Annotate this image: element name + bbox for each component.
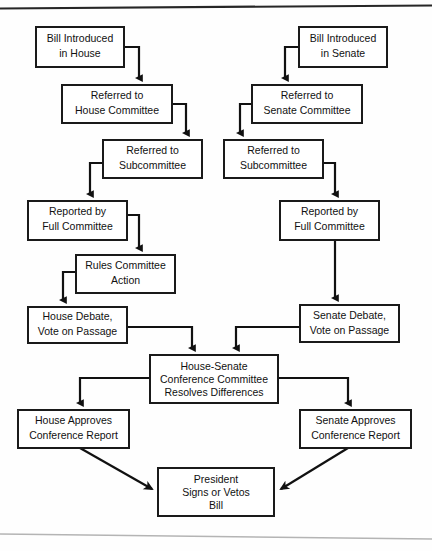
- node-ref-sub-senate-line-2: Subcommittee: [240, 159, 307, 171]
- node-house-debate-line-2: Vote on Passage: [38, 325, 118, 337]
- node-house-approves-line-2: Conference Report: [29, 429, 118, 441]
- node-bill-house-line-1: Bill Introduced: [47, 32, 114, 44]
- node-ref-sub-senate[interactable]: Referred to Subcommittee: [224, 140, 323, 178]
- node-ref-senate-cmte-line-2: Senate Committee: [264, 104, 351, 116]
- node-bill-senate-line-1: Bill Introduced: [310, 32, 377, 44]
- node-reported-house[interactable]: Reported by Full Committee: [28, 201, 127, 240]
- edge-ref-house-cmte-to-ref-sub-house: [172, 104, 186, 133]
- node-reported-senate-line-2: Full Committee: [294, 220, 365, 232]
- node-senate-debate-line-2: Vote on Passage: [310, 324, 390, 336]
- node-reported-house-line-1: Reported by: [49, 205, 107, 217]
- node-conference-line-1: House-Senate: [180, 360, 247, 372]
- node-layer: Bill Introduced in House Referred to Hou…: [18, 27, 411, 516]
- node-senate-approves-line-1: Senate Approves: [316, 414, 396, 426]
- node-reported-senate-line-1: Reported by: [301, 205, 359, 217]
- edge-bill-senate-to-ref-senate-cmte: [285, 47, 299, 78]
- node-ref-sub-house-line-2: Subcommittee: [119, 159, 186, 171]
- node-conference-line-3: Resolves Differences: [164, 386, 263, 398]
- horizontal-rule-bottom: [0, 534, 432, 539]
- edge-reported-house-to-rules-cmte: [127, 215, 139, 248]
- node-ref-senate-cmte-line-1: Referred to: [281, 89, 334, 101]
- node-senate-debate[interactable]: Senate Debate, Vote on Passage: [300, 305, 399, 342]
- node-reported-senate[interactable]: Reported by Full Committee: [280, 201, 379, 240]
- node-house-approves[interactable]: House Approves Conference Report: [18, 410, 129, 448]
- edge-rules-cmte-to-house-debate: [63, 272, 76, 300]
- node-ref-sub-house-line-1: Referred to: [126, 144, 179, 156]
- edge-ref-sub-house-to-reported-house: [90, 163, 103, 194]
- node-bill-senate[interactable]: Bill Introduced in Senate: [299, 27, 387, 67]
- node-ref-sub-senate-line-1: Referred to: [247, 144, 300, 156]
- node-ref-sub-house[interactable]: Referred to Subcommittee: [103, 140, 202, 178]
- node-ref-senate-cmte[interactable]: Referred to Senate Committee: [252, 85, 362, 123]
- node-ref-house-cmte-line-1: Referred to: [91, 89, 144, 101]
- edge-bill-house-to-ref-house-cmte: [124, 47, 139, 78]
- node-conference-line-2: Conference Committee: [160, 373, 268, 385]
- node-ref-house-cmte[interactable]: Referred to House Committee: [62, 85, 172, 123]
- node-conference[interactable]: House-Senate Conference Committee Resolv…: [150, 355, 278, 403]
- node-rules-cmte-line-1: Rules Committee: [85, 259, 166, 271]
- horizontal-rule-top: [0, 6, 432, 9]
- node-senate-approves[interactable]: Senate Approves Conference Report: [300, 410, 411, 448]
- edge-ref-senate-cmte-to-ref-sub-senate: [240, 104, 252, 133]
- bill-to-law-flowchart: Bill Introduced in House Referred to Hou…: [0, 0, 432, 551]
- node-house-debate[interactable]: House Debate, Vote on Passage: [28, 307, 127, 343]
- edge-house-debate-to-conference: [127, 327, 192, 348]
- edge-senate-debate-to-conference: [236, 327, 300, 348]
- node-house-debate-line-1: House Debate,: [42, 310, 112, 322]
- node-reported-house-line-2: Full Committee: [42, 220, 113, 232]
- node-rules-cmte-line-2: Action: [111, 274, 140, 286]
- edge-senate-approves-to-president: [281, 448, 348, 489]
- edge-house-approves-to-president: [80, 448, 152, 489]
- node-bill-senate-line-2: in Senate: [321, 47, 366, 59]
- node-house-approves-line-1: House Approves: [35, 414, 112, 426]
- node-senate-debate-line-1: Senate Debate,: [313, 309, 386, 321]
- edge-conference-to-senate-approves: [278, 378, 348, 403]
- node-rules-cmte[interactable]: Rules Committee Action: [76, 255, 175, 293]
- node-bill-house-line-2: in House: [59, 47, 101, 59]
- node-ref-house-cmte-line-2: House Committee: [75, 104, 159, 116]
- edge-ref-sub-senate-to-reported-senate: [323, 163, 335, 194]
- node-senate-approves-line-2: Conference Report: [311, 429, 400, 441]
- node-president-line-1: President: [194, 473, 238, 485]
- edge-conference-to-house-approves: [80, 378, 150, 403]
- flowchart-page: Bill Introduced in House Referred to Hou…: [0, 0, 432, 551]
- node-president-line-3: Bill: [209, 499, 223, 511]
- node-president-line-2: Signs or Vetos: [182, 486, 250, 498]
- node-president[interactable]: President Signs or Vetos Bill: [158, 468, 274, 516]
- node-bill-house[interactable]: Bill Introduced in House: [36, 27, 124, 67]
